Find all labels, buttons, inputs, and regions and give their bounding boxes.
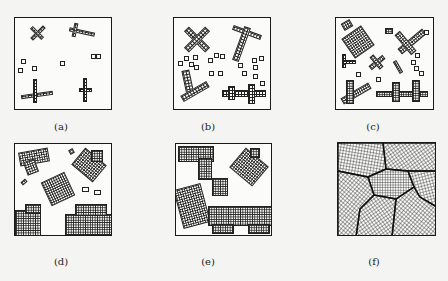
crystal [91, 150, 103, 162]
nucleus [82, 187, 89, 192]
nucleus [21, 59, 26, 64]
crystal [33, 79, 37, 103]
nucleus [253, 74, 258, 79]
panel-a-frame [14, 17, 112, 110]
panel-d-label: (d) [41, 256, 81, 267]
crystal [198, 158, 212, 180]
nucleus [253, 65, 258, 70]
nucleus [208, 58, 213, 63]
panel-f-label: (f) [354, 256, 394, 267]
nucleus [18, 68, 23, 73]
nucleus [376, 77, 381, 82]
crystal [393, 60, 403, 74]
grain-structure [338, 143, 436, 236]
nucleus [94, 190, 101, 195]
nucleus [238, 63, 243, 68]
crystal [228, 86, 235, 100]
crystal [341, 25, 374, 58]
crystal [75, 204, 107, 216]
crystal [250, 148, 260, 158]
nucleus [220, 54, 225, 59]
nucleus [260, 81, 265, 86]
crystal [41, 172, 76, 207]
nucleus [218, 71, 223, 76]
panel-f-frame [337, 142, 436, 236]
crystal [376, 91, 428, 97]
crystal [248, 224, 270, 234]
crystal [346, 80, 354, 104]
crystal [385, 28, 393, 34]
nucleus [193, 55, 198, 60]
nucleus [411, 60, 416, 65]
nucleus [32, 66, 37, 71]
crystal [229, 147, 269, 186]
panel-c-label: (c) [353, 121, 393, 132]
nucleus [60, 61, 65, 66]
nucleus [415, 53, 420, 58]
nucleus [178, 61, 183, 66]
crystal [83, 78, 87, 102]
crystal [175, 183, 211, 229]
nucleus [242, 71, 247, 76]
crystal [21, 91, 53, 99]
nucleus [209, 71, 214, 76]
crystal [68, 148, 75, 155]
nucleus [356, 72, 361, 77]
crystal [341, 19, 354, 31]
crystal [212, 178, 228, 196]
crystal [65, 214, 112, 236]
crystal [232, 26, 251, 62]
panel-c-frame [335, 17, 434, 110]
crystal [20, 179, 27, 186]
crystal [248, 84, 255, 104]
crystal [342, 60, 356, 64]
panel-b-frame [173, 17, 271, 110]
panel-d-frame [14, 143, 112, 236]
nucleus [96, 54, 101, 59]
crystal [25, 204, 41, 214]
nucleus [419, 71, 424, 76]
nucleus [259, 56, 264, 61]
panel-a-label: (a) [41, 121, 81, 132]
nucleus [184, 56, 189, 61]
panel-b-label: (b) [188, 121, 228, 132]
nucleus [252, 58, 257, 63]
nucleus [214, 53, 219, 58]
crystal [392, 82, 400, 102]
nucleus [424, 30, 429, 35]
panel-e-label: (e) [188, 256, 228, 267]
crystal [412, 80, 420, 102]
panel-e-frame [175, 143, 272, 236]
nucleus [194, 65, 199, 70]
crystal [212, 224, 234, 234]
crystal [208, 206, 272, 226]
